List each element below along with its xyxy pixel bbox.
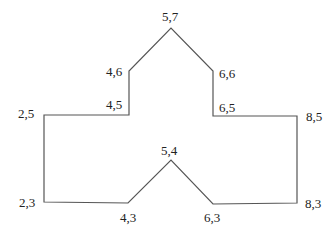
polygon-outline xyxy=(44,28,297,204)
vertex-label-4-3: 4,3 xyxy=(120,210,136,225)
vertex-label-2-5: 2,5 xyxy=(18,106,34,121)
vertex-label-6-5: 6,5 xyxy=(219,100,235,115)
vertex-label-4-6: 4,6 xyxy=(106,64,123,79)
vertex-label-8-5: 8,5 xyxy=(306,109,322,124)
vertex-label-2-3: 2,3 xyxy=(19,195,35,210)
vertex-label-8-3: 8,3 xyxy=(305,196,321,211)
vertex-label-5-4: 5,4 xyxy=(161,143,178,158)
vertex-label-5-7: 5,7 xyxy=(162,9,179,24)
polygon-diagram: 2,5 4,5 4,6 5,7 6,6 6,5 8,5 8,3 6,3 5,4 … xyxy=(0,0,334,237)
vertex-label-6-3: 6,3 xyxy=(204,210,220,225)
vertex-label-4-5: 4,5 xyxy=(106,97,122,112)
vertex-label-6-6: 6,6 xyxy=(219,66,236,81)
